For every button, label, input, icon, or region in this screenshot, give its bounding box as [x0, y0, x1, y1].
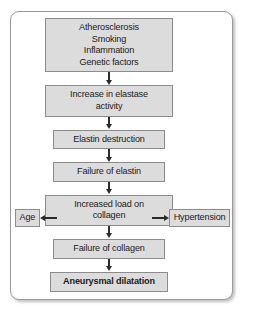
arrow-head [164, 215, 169, 221]
arrow-head [106, 80, 112, 85]
flowchart-side-branch-row: Age Hypertension [15, 198, 230, 238]
flow-node-line: Inflammation [50, 45, 168, 57]
arrow-shaft [45, 217, 57, 219]
flow-node-hypertension: Hypertension [169, 209, 230, 227]
arrow-shaft [152, 217, 164, 219]
flow-node-failure-of-collagen: Failure of collagen [53, 239, 165, 259]
flow-node-line: Genetic factors [50, 57, 168, 69]
flow-node-line: Elastin destruction [58, 134, 160, 146]
arrow-left-icon [40, 214, 57, 223]
arrow-head [40, 215, 45, 221]
flow-node-line: Failure of elastin [58, 166, 160, 178]
arrow-down-icon [105, 149, 114, 162]
figure-panel: Atherosclerosis Smoking Inflammation Gen… [10, 11, 233, 300]
flow-node-line: Smoking [50, 34, 168, 46]
flow-node-age: Age [15, 209, 40, 227]
arrow-head [106, 266, 112, 271]
arrow-head [106, 157, 112, 162]
flow-node-risk-factors: Atherosclerosis Smoking Inflammation Gen… [45, 18, 173, 72]
flow-node-failure-of-elastin: Failure of elastin [53, 162, 165, 182]
arrow-head [106, 124, 112, 129]
flowchart-main-column: Atherosclerosis Smoking Inflammation Gen… [45, 18, 173, 292]
flow-node-aneurysmal-dilatation: Aneurysmal dilatation [50, 272, 168, 293]
flow-node-elastin-destruction: Elastin destruction [53, 130, 165, 150]
flow-node-line: Failure of collagen [58, 243, 160, 255]
flow-node-line: Increase in elastase [50, 89, 168, 101]
flow-node-line: Aneurysmal dilatation [55, 276, 163, 288]
arrow-down-icon [105, 259, 114, 272]
flow-node-line: activity [50, 101, 168, 113]
arrow-down-icon [105, 72, 114, 85]
arrow-right-icon [152, 214, 169, 223]
flow-node-elastase-activity: Increase in elastase activity [45, 85, 173, 116]
flow-node-line: Atherosclerosis [50, 22, 168, 34]
arrow-down-icon [105, 182, 114, 195]
arrow-down-icon [105, 117, 114, 130]
arrow-head [106, 189, 112, 194]
